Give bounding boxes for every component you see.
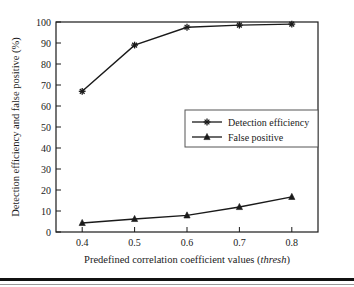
x-tick-label: 0.7 — [233, 237, 246, 248]
figure-container: 0102030405060708090100 0.40.50.60.70.8 D… — [0, 0, 354, 287]
legend-label: False positive — [228, 132, 284, 143]
legend-label: Detection efficiency — [228, 117, 309, 128]
x-axis: 0.40.50.60.70.8 — [76, 227, 298, 248]
x-tick-label: 0.6 — [181, 237, 194, 248]
triangle-marker — [289, 193, 295, 199]
series-false-positive — [79, 193, 295, 225]
y-tick-label: 100 — [36, 17, 51, 28]
star-marker — [184, 24, 191, 31]
y-tick-label: 20 — [41, 185, 51, 196]
y-tick-label: 40 — [41, 143, 51, 154]
chart-legend[interactable]: Detection efficiencyFalse positive — [185, 110, 318, 147]
y-tick-label: 80 — [41, 59, 51, 70]
y-tick-label: 50 — [41, 122, 51, 133]
series-detection-efficiency — [79, 21, 295, 95]
y-tick-label: 0 — [46, 227, 51, 238]
y-axis-title: Detection efficiency and false positive … — [10, 37, 22, 217]
x-title-italic: thresh — [261, 254, 287, 265]
star-marker — [204, 119, 211, 126]
star-marker — [131, 42, 138, 49]
y-axis: 0102030405060708090100 — [36, 17, 61, 238]
y-tick-label: 90 — [41, 38, 51, 49]
x-tick-label: 0.5 — [128, 237, 141, 248]
footer-rule-thin — [0, 284, 354, 285]
y-tick-label: 70 — [41, 80, 51, 91]
x-tick-label: 0.8 — [286, 237, 299, 248]
y-tick-label: 30 — [41, 164, 51, 175]
x-axis-title: Predefined correlation coefficient value… — [84, 254, 290, 266]
y-tick-label: 60 — [41, 101, 51, 112]
star-marker — [236, 22, 243, 29]
x-tick-label: 0.4 — [76, 237, 89, 248]
footer-rule — [0, 278, 354, 281]
series-line — [82, 197, 292, 223]
x-title-main: Predefined correlation coefficient value… — [84, 254, 261, 266]
y-tick-label: 10 — [41, 206, 51, 217]
chart-canvas: 0102030405060708090100 0.40.50.60.70.8 D… — [0, 0, 354, 287]
x-title-close: ) — [286, 254, 290, 266]
series-line — [82, 24, 292, 91]
star-marker — [79, 88, 86, 95]
